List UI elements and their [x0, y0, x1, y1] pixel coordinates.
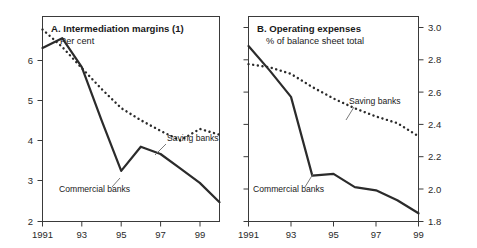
- panel-a-plot: 6 5 4 3 2 1991 93 95 97 99 A. Intermedia…: [0, 0, 240, 248]
- panel-b-xtick-97: 97: [371, 229, 382, 240]
- panel-a-ytick-2: 2: [28, 216, 33, 227]
- panel-a-label-saving-banks: Saving banks: [167, 133, 219, 143]
- panel-b-label-commercial-banks: Commercial banks: [253, 184, 324, 194]
- panel-b-label-saving-banks: Saving banks: [349, 96, 401, 106]
- panel-b-xtick-1991: 1991: [238, 229, 259, 240]
- panel-b-ytick-2-4: 2.4: [428, 119, 441, 130]
- panel-b-ytick-2-6: 2.6: [428, 87, 441, 98]
- panel-a-ytick-4: 4: [28, 135, 33, 146]
- panel-b-leader-saving-banks: [346, 107, 354, 120]
- panel-a-label-commercial-banks: Commercial banks: [59, 184, 130, 194]
- panel-b-ytick-3-0: 3.0: [428, 22, 441, 33]
- panel-a-xtick-95: 95: [116, 229, 127, 240]
- figure-container: 6 5 4 3 2 1991 93 95 97 99 A. Intermedia…: [0, 0, 477, 248]
- panel-a-series-saving-banks: [43, 30, 220, 141]
- panel-a-xtick-1991: 1991: [32, 229, 53, 240]
- panel-a-xtick-97: 97: [155, 229, 166, 240]
- panel-b-left-ticks: [244, 28, 249, 222]
- panel-a-x-ticks: [43, 222, 201, 227]
- panel-b-ytick-2-0: 2.0: [428, 184, 441, 195]
- panel-b-title: B. Operating expenses: [257, 23, 361, 34]
- panel-a-title: A. Intermediation margins (1): [51, 23, 184, 34]
- panel-a-intermediation-margins: 6 5 4 3 2 1991 93 95 97 99 A. Intermedia…: [0, 0, 240, 248]
- panel-b-ytick-2-8: 2.8: [428, 54, 441, 65]
- panel-b-xtick-93: 93: [286, 229, 297, 240]
- panel-a-ytick-3: 3: [28, 175, 33, 186]
- panel-b-subtitle: % of balance sheet total: [266, 36, 364, 46]
- panel-b-xtick-95: 95: [328, 229, 339, 240]
- panel-a-ytick-6: 6: [28, 55, 33, 66]
- panel-b-plot: 3.0 2.8 2.6 2.4 2.2 2.0 1.8 1991 93 95 9…: [237, 0, 477, 248]
- panel-a-xtick-99: 99: [195, 229, 206, 240]
- panel-b-xtick-99: 99: [413, 229, 424, 240]
- panel-a-xtick-93: 93: [77, 229, 88, 240]
- panel-b-x-ticks: [249, 222, 419, 227]
- panel-a-ytick-5: 5: [28, 95, 33, 106]
- panel-b-ytick-1-8: 1.8: [428, 216, 441, 227]
- panel-a-series-commercial-banks: [43, 38, 220, 202]
- panel-b-ytick-2-2: 2.2: [428, 151, 441, 162]
- panel-b-operating-expenses: 3.0 2.8 2.6 2.4 2.2 2.0 1.8 1991 93 95 9…: [237, 0, 477, 248]
- panel-b-y-ticks: [419, 28, 424, 222]
- panel-a-y-ticks: [38, 61, 43, 222]
